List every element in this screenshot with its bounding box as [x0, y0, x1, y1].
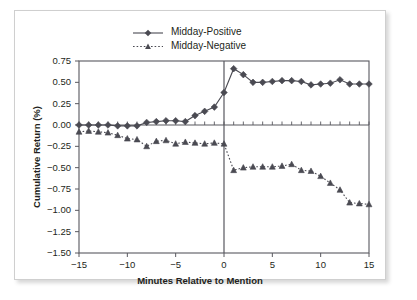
- legend-label-1: Midday-Positive: [171, 26, 242, 37]
- data-point-marker: [76, 129, 82, 135]
- data-point-marker: [76, 122, 83, 129]
- y-axis-tick-label: 0.50: [37, 76, 71, 87]
- data-point-marker: [182, 139, 188, 145]
- legend-label-2: Midday-Negative: [171, 40, 246, 51]
- y-axis-tick-label: −0.50: [37, 162, 71, 173]
- data-point-marker: [192, 112, 199, 119]
- x-axis-tick-label: −10: [112, 259, 142, 270]
- data-point-marker: [124, 123, 131, 130]
- y-axis-tick-label: 0.25: [37, 98, 71, 109]
- data-point-marker: [95, 122, 102, 129]
- data-point-marker: [327, 180, 333, 186]
- x-axis-tick-label: 15: [354, 259, 384, 270]
- data-point-marker: [317, 81, 324, 88]
- data-point-marker: [211, 140, 217, 146]
- data-point-marker: [279, 77, 286, 84]
- data-point-marker: [202, 141, 208, 147]
- data-point-marker: [337, 187, 343, 193]
- chart-frame: 0.750.500.250.00−0.25−0.50−0.75−1.00−1.2…: [14, 10, 386, 280]
- data-point-marker: [288, 77, 295, 84]
- data-point-marker: [240, 165, 246, 171]
- x-axis-tick-label: 0: [209, 259, 239, 270]
- data-point-marker: [366, 201, 372, 207]
- y-axis-title: Cumulative Return (%): [31, 61, 42, 253]
- data-point-marker: [163, 117, 170, 124]
- x-axis-tick-label: 5: [257, 259, 287, 270]
- data-point-marker: [134, 123, 141, 130]
- data-point-marker: [105, 122, 112, 129]
- data-point-marker: [153, 118, 160, 125]
- data-point-marker: [366, 81, 373, 88]
- data-point-marker: [105, 130, 111, 136]
- legend-marker-2: [145, 43, 151, 49]
- x-axis-tick-label: −5: [161, 259, 191, 270]
- x-axis-tick-label: 10: [306, 259, 336, 270]
- legend-marker-1: [145, 30, 152, 37]
- data-point-marker: [201, 108, 208, 115]
- data-point-marker: [182, 118, 189, 125]
- data-point-marker: [230, 65, 237, 72]
- x-axis-title: Minutes Relative to Mention: [15, 275, 385, 286]
- data-point-marker: [259, 79, 266, 86]
- data-point-marker: [163, 137, 169, 143]
- data-point-marker: [337, 76, 344, 83]
- data-point-marker: [250, 164, 256, 170]
- y-axis-tick-label: −1.00: [37, 204, 71, 215]
- data-point-marker: [114, 123, 121, 130]
- data-point-marker: [221, 89, 228, 96]
- data-point-marker: [134, 136, 140, 142]
- x-axis-tick-label: −15: [64, 259, 94, 270]
- y-axis-tick-label: 0.00: [37, 119, 71, 130]
- data-point-marker: [95, 129, 101, 135]
- data-point-marker: [318, 173, 324, 179]
- data-point-marker: [298, 78, 305, 85]
- data-point-marker: [211, 104, 218, 111]
- data-point-marker: [327, 80, 334, 87]
- y-axis-tick-label: 0.75: [37, 55, 71, 66]
- data-point-marker: [172, 117, 179, 124]
- data-point-marker: [269, 78, 276, 85]
- data-point-marker: [279, 163, 285, 169]
- data-point-marker: [346, 81, 353, 88]
- data-point-marker: [289, 161, 295, 167]
- data-point-marker: [173, 141, 179, 147]
- data-point-marker: [356, 81, 363, 88]
- data-point-marker: [144, 143, 150, 149]
- y-axis-tick-label: −0.25: [37, 140, 71, 151]
- data-point-marker: [298, 167, 304, 173]
- y-axis-tick-label: −1.25: [37, 226, 71, 237]
- data-point-marker: [308, 82, 315, 89]
- y-axis-tick-label: −1.50: [37, 247, 71, 258]
- figure-container: 0.750.500.250.00−0.25−0.50−0.75−1.00−1.2…: [0, 0, 417, 300]
- y-axis-tick-label: −0.75: [37, 183, 71, 194]
